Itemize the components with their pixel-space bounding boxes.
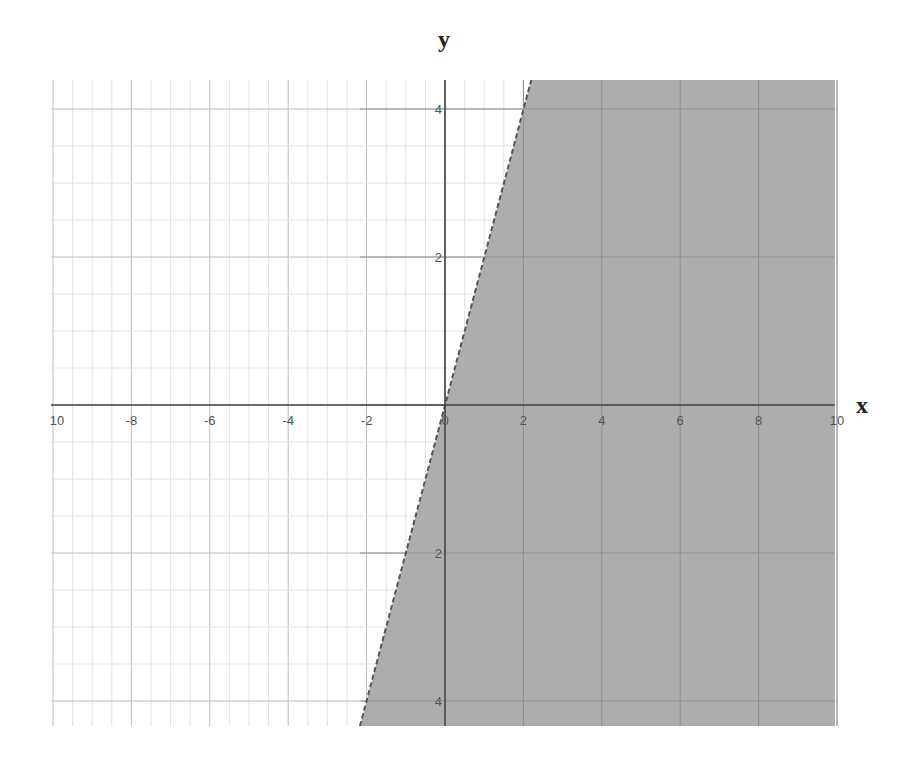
x-tick-label: 6 xyxy=(677,413,684,428)
x-tick-label: 2 xyxy=(520,413,527,428)
x-tick-label: 10 xyxy=(50,413,64,428)
x-axis-title: x xyxy=(856,392,868,419)
inequality-graph: 10-8-6-4-202468104224 xyxy=(0,0,917,766)
x-tick-label: 0 xyxy=(441,413,448,428)
x-tick-label: -2 xyxy=(361,413,373,428)
y-tick-label: 2 xyxy=(435,250,442,265)
y-tick-label: 4 xyxy=(435,102,442,117)
shaded-region xyxy=(360,80,835,726)
x-tick-label: -4 xyxy=(282,413,294,428)
x-tick-label: -6 xyxy=(204,413,216,428)
x-tick-label: 10 xyxy=(830,413,844,428)
y-tick-label: 4 xyxy=(435,694,442,709)
x-tick-label: 8 xyxy=(755,413,762,428)
x-tick-label: -8 xyxy=(126,413,138,428)
y-tick-label: 2 xyxy=(435,546,442,561)
x-tick-label: 4 xyxy=(598,413,605,428)
y-axis-title: y xyxy=(438,26,450,53)
